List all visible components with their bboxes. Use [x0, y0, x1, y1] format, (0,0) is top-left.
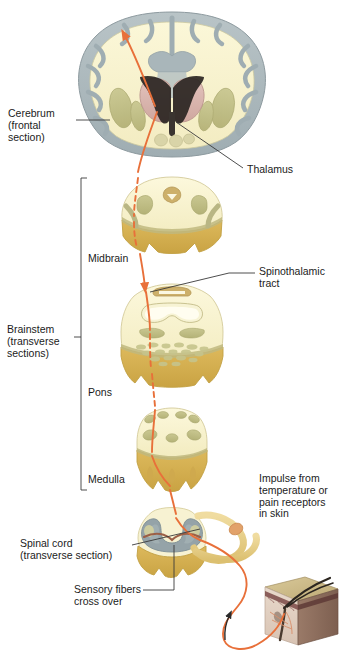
label-sensory-fibers-cross-over: Sensory fibers cross over [74, 584, 141, 608]
label-impulse-from-skin: Impulse from temperature or pain recepto… [259, 473, 328, 520]
cerebrum-frontal-section [79, 12, 266, 157]
medulla-section [137, 408, 207, 492]
label-medulla: Medulla [88, 474, 125, 486]
label-thalamus: Thalamus [247, 164, 293, 176]
label-spinothalamic-tract: Spinothalamic tract [259, 266, 325, 290]
brainstem-bracket [74, 178, 87, 490]
pons-section [121, 284, 223, 387]
label-cerebrum: Cerebrum (frontal section) [8, 108, 55, 143]
label-pons: Pons [88, 387, 112, 399]
label-spinal-cord: Spinal cord (transverse section) [20, 538, 112, 562]
label-brainstem: Brainstem (transverse sections) [7, 324, 60, 359]
label-midbrain: Midbrain [88, 253, 128, 265]
skin-block [265, 577, 338, 645]
